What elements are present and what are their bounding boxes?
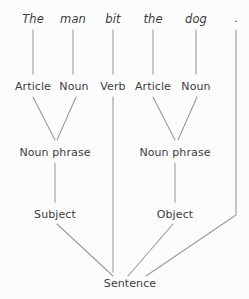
- parse-tree-diagram: Themanbitthedog.ArticleNounVerbArticleNo…: [0, 0, 249, 299]
- tree-edge-p2-to-n1: [57, 97, 76, 140]
- tree-node-p4-parts_of_speech: Article: [135, 80, 171, 94]
- tree-node-s1-root: Sentence: [104, 277, 156, 291]
- tree-node-r2-roles: Object: [157, 208, 193, 222]
- tree-edge-r1-to-s1: [57, 224, 113, 276]
- tree-node-w5-words: dog: [185, 12, 207, 26]
- tree-node-p5-parts_of_speech: Noun: [181, 80, 210, 94]
- tree-node-p2-parts_of_speech: Noun: [59, 80, 88, 94]
- tree-edge-p4-to-n2: [153, 97, 175, 140]
- tree-node-w1-words: The: [22, 12, 44, 26]
- tree-node-p1-parts_of_speech: Article: [15, 80, 51, 94]
- tree-edge-p5-to-n2: [178, 97, 197, 140]
- tree-node-r1-roles: Subject: [34, 208, 76, 222]
- tree-edge-p1-to-n1: [33, 97, 55, 140]
- tree-node-w4-words: the: [143, 12, 162, 26]
- tree-node-p3-parts_of_speech: Verb: [100, 80, 125, 94]
- tree-node-n2-phrases: Noun phrase: [139, 146, 210, 160]
- tree-node-w3-words: bit: [105, 12, 120, 26]
- tree-edge-r2-to-s1: [128, 224, 173, 276]
- tree-node-n1-phrases: Noun phrase: [19, 146, 90, 160]
- tree-node-w2-words: man: [60, 12, 86, 26]
- tree-node-w6-words: .: [234, 12, 238, 26]
